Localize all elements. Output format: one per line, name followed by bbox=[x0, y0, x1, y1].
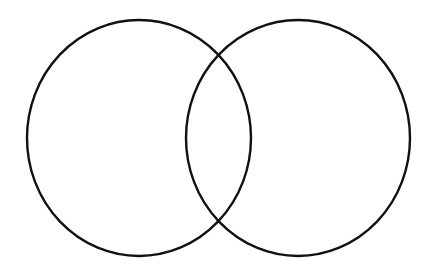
venn-diagram bbox=[0, 0, 435, 273]
venn-diagram-canvas bbox=[0, 0, 435, 273]
venn-right-circle bbox=[186, 20, 410, 256]
